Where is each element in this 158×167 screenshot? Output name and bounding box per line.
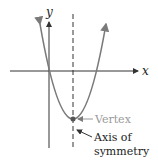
axis-pointer-arrow bbox=[77, 130, 92, 137]
axis-label-line1: Axis of bbox=[93, 131, 132, 144]
vertex-point bbox=[71, 117, 76, 122]
parabola-diagram: x y Vertex Axis of symmetry bbox=[0, 0, 158, 167]
y-axis-label: y bbox=[45, 5, 53, 19]
vertex-label: Vertex bbox=[94, 113, 132, 126]
x-axis-label: x bbox=[142, 64, 149, 78]
axis-label-line2: symmetry bbox=[94, 145, 150, 158]
